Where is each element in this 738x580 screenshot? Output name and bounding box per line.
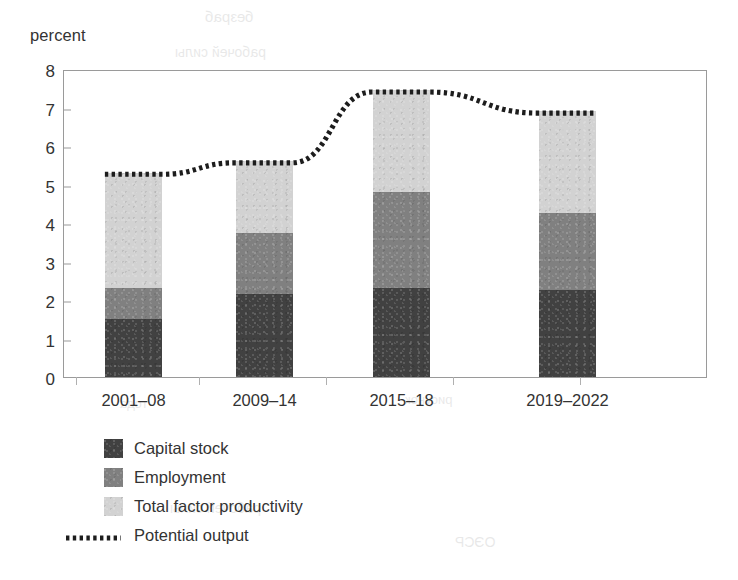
y-tick-mark: [64, 302, 71, 303]
paper-grain: [104, 468, 123, 487]
bar-2009-14: [236, 161, 293, 377]
legend-label: Total factor productivity: [134, 498, 303, 515]
x-axis-label: 2019–2022: [526, 391, 609, 410]
y-tick-label: 2: [46, 294, 55, 311]
bar-segment-capital-stock: [539, 290, 596, 377]
bar-segment-total-factor-productivity: [105, 173, 162, 289]
y-tick-mark: [64, 263, 71, 264]
x-tick-mark: [199, 377, 200, 385]
y-tick-label: 0: [46, 371, 55, 388]
paper-grain: [539, 213, 596, 290]
paper-grain: [373, 288, 430, 377]
plot-area: 0123456782001–082009–142015–182019–2022: [63, 70, 707, 378]
legend-item-capital-stock: Capital stock: [104, 438, 303, 458]
bar-2015-18: [373, 90, 430, 377]
bar-segment-total-factor-productivity: [539, 111, 596, 213]
legend-label: Potential output: [134, 527, 249, 544]
y-tick-label: 3: [46, 255, 55, 272]
paper-grain: [539, 290, 596, 377]
y-tick-label: 4: [46, 217, 55, 234]
bar-segment-employment: [105, 288, 162, 319]
chart-legend: Capital stockEmploymentTotal factor prod…: [104, 438, 303, 545]
y-tick-label: 6: [46, 140, 55, 157]
x-axis-label: 2001–08: [101, 391, 165, 410]
paper-grain: [373, 90, 430, 192]
x-tick-mark: [453, 377, 454, 385]
x-tick-mark: [326, 377, 327, 385]
bar-segment-total-factor-productivity: [373, 90, 430, 192]
legend-item-total-factor-productivity: Total factor productivity: [104, 496, 303, 516]
x-axis-label: 2015–18: [369, 391, 433, 410]
potential-output-dotted-path: [105, 92, 594, 174]
paper-grain: [105, 173, 162, 289]
legend-item-employment: Employment: [104, 467, 303, 487]
y-axis-title: percent: [30, 26, 86, 45]
x-axis-label: 2009–14: [232, 391, 296, 410]
potential-output-chart: percent 0123456782001–082009–142015–1820…: [0, 0, 738, 580]
paper-grain: [236, 233, 293, 295]
paper-grain: [236, 161, 293, 232]
x-tick-mark: [580, 377, 581, 385]
y-tick-label: 7: [46, 101, 55, 118]
legend-label: Capital stock: [134, 440, 228, 457]
x-tick-mark: [76, 377, 77, 385]
y-tick-label: 5: [46, 178, 55, 195]
bar-2001-08: [105, 173, 162, 377]
bar-segment-employment: [236, 233, 293, 295]
legend-color-swatch: [104, 468, 123, 487]
paper-grain: [105, 288, 162, 319]
legend-color-swatch: [104, 497, 123, 516]
bar-segment-capital-stock: [373, 288, 430, 377]
y-tick-mark: [64, 225, 71, 226]
y-tick-label: 1: [46, 332, 55, 349]
y-tick-mark: [64, 340, 71, 341]
paper-grain: [539, 111, 596, 213]
paper-grain: [104, 497, 123, 516]
paper-grain: [373, 192, 430, 288]
paper-grain: [236, 294, 293, 377]
legend-label: Employment: [134, 469, 226, 486]
y-tick-mark: [64, 109, 71, 110]
bar-segment-capital-stock: [105, 319, 162, 377]
bar-segment-employment: [539, 213, 596, 290]
legend-dotted-line-swatch: [64, 526, 123, 545]
y-tick-label: 8: [46, 63, 55, 80]
bar-segment-capital-stock: [236, 294, 293, 377]
bar-segment-employment: [373, 192, 430, 288]
y-tick-mark: [64, 148, 71, 149]
legend-item-potential-output: Potential output: [64, 525, 303, 545]
bar-2019-2022: [539, 111, 596, 377]
bar-segment-total-factor-productivity: [236, 161, 293, 232]
paper-grain: [104, 439, 123, 458]
paper-grain: [105, 319, 162, 377]
y-tick-mark: [64, 186, 71, 187]
legend-color-swatch: [104, 439, 123, 458]
